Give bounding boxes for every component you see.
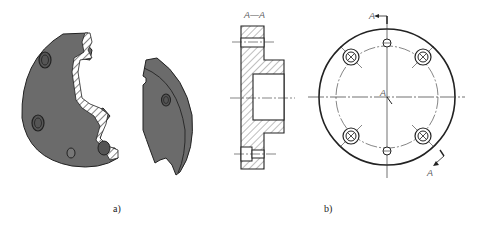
small-hole	[67, 148, 75, 158]
top-hole	[241, 38, 264, 47]
cut-arrow-top: A	[368, 11, 387, 24]
cut-label-top: A	[368, 11, 375, 21]
caption-a: a)	[113, 203, 121, 214]
center-label: A	[379, 88, 386, 98]
cut-arrow-bottom: A	[426, 150, 444, 178]
bore	[253, 74, 284, 120]
technical-drawing: A—A	[0, 0, 480, 227]
caption-b: b)	[324, 203, 332, 214]
section-view-a-a: A—A	[230, 10, 295, 169]
front-view: A A A	[308, 11, 465, 178]
hole	[39, 52, 51, 68]
flange-right-piece	[143, 58, 193, 175]
section-title: A—A	[243, 10, 265, 20]
counterbored-hole	[340, 125, 362, 147]
hole	[32, 115, 44, 131]
hole	[162, 94, 171, 106]
isometric-cutaway-view	[22, 33, 193, 175]
counterbored-hole	[412, 125, 434, 147]
counterbore	[98, 141, 110, 155]
counterbored-hole	[340, 46, 362, 68]
cut-label-bottom: A	[426, 168, 433, 178]
counterbored-hole	[412, 46, 434, 68]
